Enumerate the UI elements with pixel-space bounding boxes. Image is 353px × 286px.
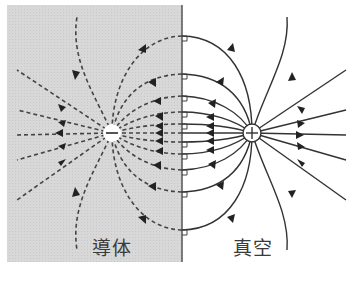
real-charge-positive: [243, 124, 261, 142]
conductor-label: 導体: [92, 233, 132, 260]
vacuum-label: 真空: [233, 233, 273, 260]
image-charge-negative: [103, 124, 121, 142]
field-line-diagram: [0, 0, 353, 286]
vacuum-field-lines: [182, 17, 346, 250]
